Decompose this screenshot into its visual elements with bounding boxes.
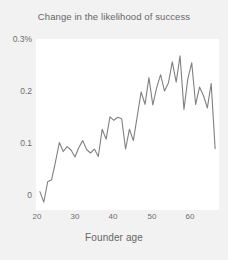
y-tick-label-2: 0.2 [0, 87, 32, 96]
chart-figure: Change in the likelihood of success 0.3%… [0, 0, 228, 260]
x-tick-label-20: 20 [25, 213, 49, 221]
series-line-founder-age [40, 56, 215, 202]
x-tick-label-40: 40 [101, 213, 125, 221]
series-line-chart [36, 39, 219, 210]
x-tick-label-50: 50 [140, 213, 164, 221]
x-tick-label-30: 30 [63, 213, 87, 221]
chart-title: Change in the likelihood of success [0, 11, 228, 22]
plot-panel [36, 39, 219, 210]
y-tick-label-0: 0 [0, 191, 32, 200]
x-tick-label-60: 60 [178, 213, 202, 221]
y-tick-label-1: 0.1 [0, 139, 32, 148]
y-axis: 0.3% 0.2 0.1 0 [0, 0, 32, 260]
y-tick-label-3: 0.3% [0, 35, 32, 44]
x-axis-title: Founder age [0, 232, 228, 243]
